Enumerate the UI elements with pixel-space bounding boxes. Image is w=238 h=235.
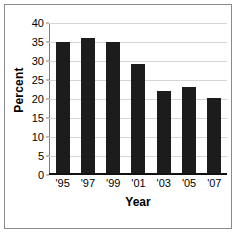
chart-figure: Percent 4035302520151050 '95'97'99'01'03… [4, 4, 232, 229]
x-tick-label: '99 [101, 177, 126, 189]
y-tick-label: 0 [38, 169, 44, 181]
y-tick-label: 35 [32, 36, 44, 48]
y-tick-mark [46, 99, 49, 100]
x-tick-label: '01 [126, 177, 151, 189]
x-axis-ticks: '95'97'99'01'03'05'07 [50, 177, 227, 189]
y-tick-mark [46, 175, 49, 176]
y-tick-mark [46, 80, 49, 81]
bar [81, 38, 95, 173]
y-tick-mark [46, 23, 49, 24]
y-tick-mark [46, 156, 49, 157]
y-tick-label: 25 [32, 74, 44, 86]
bar-slot [75, 23, 100, 173]
bar-slot [101, 23, 126, 173]
y-tick-mark [46, 137, 49, 138]
y-tick-label: 5 [38, 150, 44, 162]
x-axis-line [49, 173, 227, 175]
y-axis-title: Percent [9, 5, 29, 175]
bar [207, 98, 221, 173]
y-tick-mark [46, 118, 49, 119]
bar-slot [126, 23, 151, 173]
bar-slot [50, 23, 75, 173]
x-tick-label: '97 [75, 177, 100, 189]
y-tick-label: 30 [32, 55, 44, 67]
bar [182, 87, 196, 173]
x-axis-title: Year [49, 195, 227, 209]
y-tick-mark [46, 42, 49, 43]
plot-area: 4035302520151050 [49, 23, 227, 175]
bar [131, 64, 145, 173]
x-tick-label: '07 [202, 177, 227, 189]
bar-slot [151, 23, 176, 173]
bar [106, 42, 120, 173]
bar [56, 42, 70, 173]
x-tick-label: '03 [151, 177, 176, 189]
y-tick-label: 40 [32, 17, 44, 29]
x-tick-label: '95 [50, 177, 75, 189]
bar-slot [202, 23, 227, 173]
bar [157, 91, 171, 174]
y-tick-label: 10 [32, 131, 44, 143]
y-tick-label: 20 [32, 93, 44, 105]
y-axis-title-text: Percent [12, 67, 26, 112]
y-tick-label: 15 [32, 112, 44, 124]
bar-slot [176, 23, 201, 173]
x-tick-label: '05 [176, 177, 201, 189]
bar-series [50, 23, 227, 173]
y-tick-mark [46, 61, 49, 62]
